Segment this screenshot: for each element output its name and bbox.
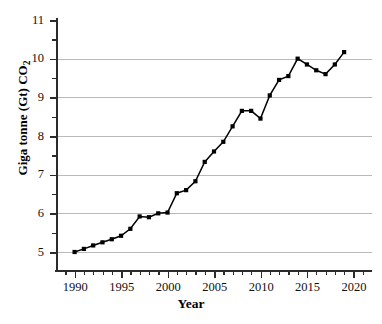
x-tick-minor-2004 — [205, 271, 206, 275]
y-tick-minor-8_5 — [52, 117, 57, 118]
x-tick-minor-2012 — [279, 271, 280, 275]
data-point — [100, 240, 104, 244]
x-tick-minor-2016 — [316, 271, 317, 275]
x-tick-label-2005: 2005 — [191, 281, 239, 294]
x-tick-label-2020: 2020 — [330, 281, 378, 294]
x-tick-1990 — [75, 271, 77, 278]
gridline-y-9 — [57, 97, 372, 98]
data-point — [314, 68, 318, 72]
y-tick-6 — [50, 213, 57, 215]
y-tick-minor-9_5 — [52, 78, 57, 79]
x-tick-minor-1996 — [130, 271, 131, 275]
y-tick-label-6: 6 — [16, 207, 44, 220]
data-point — [342, 50, 346, 54]
x-tick-2020 — [353, 271, 355, 278]
x-tick-label-2010: 2010 — [237, 281, 285, 294]
data-point — [258, 117, 262, 121]
y-axis-title: Giga tonne (Gt) CO2 — [15, 33, 31, 203]
data-point — [230, 124, 234, 128]
x-tick-minor-2013 — [288, 271, 289, 275]
y-tick-minor-6_5 — [52, 194, 57, 195]
y-tick-minor-7_5 — [52, 155, 57, 156]
x-tick-minor-1998 — [149, 271, 150, 275]
x-tick-minor-2011 — [270, 271, 271, 275]
y-tick-11 — [50, 20, 57, 22]
gridline-y-5 — [57, 252, 372, 253]
series-markers — [72, 50, 346, 254]
y-tick-10 — [50, 59, 57, 61]
data-point — [277, 78, 281, 82]
x-tick-minor-1997 — [140, 271, 141, 275]
x-tick-minor-2003 — [195, 271, 196, 275]
x-tick-label-1995: 1995 — [98, 281, 146, 294]
x-tick-label-2015: 2015 — [284, 281, 332, 294]
data-point — [82, 247, 86, 251]
data-point — [323, 72, 327, 76]
plot-area: 11 10 9 8 7 6 5 — [0, 0, 382, 324]
data-point — [333, 62, 337, 66]
data-point — [221, 140, 225, 144]
gridline-y-7 — [57, 175, 372, 176]
y-tick-7 — [50, 175, 57, 177]
x-tick-minor-2019 — [344, 271, 345, 275]
x-axis-title: Year — [0, 296, 382, 312]
x-tick-minor-2014 — [298, 271, 299, 275]
data-point — [184, 188, 188, 192]
x-tick-minor-2018 — [335, 271, 336, 275]
data-point — [212, 149, 216, 153]
x-tick-label-2000: 2000 — [144, 281, 192, 294]
data-point — [175, 191, 179, 195]
data-point — [128, 227, 132, 231]
y-tick-minor-5_5 — [52, 233, 57, 234]
data-point — [110, 237, 114, 241]
data-point — [286, 74, 290, 78]
x-tick-minor-2002 — [186, 271, 187, 275]
gridline-y-8 — [57, 136, 372, 137]
x-tick-minor-2001 — [177, 271, 178, 275]
x-tick-label-1990: 1990 — [51, 281, 99, 294]
data-point — [119, 234, 123, 238]
data-point — [138, 214, 142, 218]
y-tick-minor-10_5 — [52, 39, 57, 40]
x-tick-minor-1994 — [112, 271, 113, 275]
y-axis-title-text: Giga tonne (Gt) CO — [15, 65, 30, 175]
data-point — [305, 62, 309, 66]
y-tick-8 — [50, 136, 57, 138]
y-tick-9 — [50, 97, 57, 99]
y-tick-label-5: 5 — [16, 246, 44, 259]
y-tick-5 — [50, 252, 57, 254]
x-tick-1995 — [121, 271, 123, 278]
y-tick-label-11: 11 — [16, 14, 44, 27]
data-point — [203, 160, 207, 164]
y-axis-title-subscript: 2 — [22, 61, 32, 66]
x-tick-minor-2007 — [233, 271, 234, 275]
x-tick-minor-2021 — [363, 271, 364, 275]
x-tick-minor-1992 — [93, 271, 94, 275]
x-tick-minor-1991 — [84, 271, 85, 275]
x-tick-minor-2009 — [251, 271, 252, 275]
gridline-y-6 — [57, 213, 372, 214]
x-tick-minor-2006 — [223, 271, 224, 275]
data-point — [249, 109, 253, 113]
data-point — [91, 243, 95, 247]
data-point — [193, 179, 197, 183]
data-point — [147, 215, 151, 219]
gridline-y-10 — [57, 59, 372, 60]
data-point — [240, 109, 244, 113]
series-line — [75, 52, 345, 252]
x-tick-minor-2017 — [326, 271, 327, 275]
x-tick-minor-1993 — [103, 271, 104, 275]
chart-page: 11 10 9 8 7 6 5 — [0, 0, 382, 324]
x-tick-2010 — [261, 271, 263, 278]
x-tick-minor-2008 — [242, 271, 243, 275]
x-tick-2015 — [307, 271, 309, 278]
x-tick-2000 — [168, 271, 170, 278]
x-tick-minor-1989 — [65, 271, 66, 275]
x-tick-minor-1999 — [158, 271, 159, 275]
x-tick-2005 — [214, 271, 216, 278]
